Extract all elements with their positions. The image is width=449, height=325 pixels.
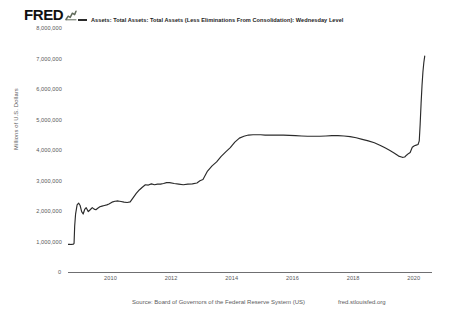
chart-header: FRED Assets: Total Assets: Total Assets … bbox=[0, 6, 449, 24]
chart-legend: Assets: Total Assets: Total Assets (Less… bbox=[78, 14, 343, 26]
y-tick-label: 1,000,000 bbox=[36, 239, 62, 245]
fred-chart: FRED Assets: Total Assets: Total Assets … bbox=[0, 0, 449, 325]
legend-label-series-1: Assets: Total Assets: Total Assets (Less… bbox=[91, 16, 343, 24]
y-tick-label: 4,000,000 bbox=[36, 147, 62, 153]
x-tick-label: 2012 bbox=[165, 275, 178, 281]
legend-swatch-series-1 bbox=[78, 19, 87, 21]
y-tick-label: 3,000,000 bbox=[36, 178, 62, 184]
chart-footer: Source: Board of Governors of the Federa… bbox=[0, 299, 449, 311]
x-tick-label: 2014 bbox=[225, 275, 238, 281]
x-axis-tick-labels: 201020122014201620182020 bbox=[0, 275, 449, 287]
fred-logo[interactable]: FRED bbox=[24, 6, 77, 22]
series-line-total-assets bbox=[68, 28, 432, 272]
y-tick-label: 8,000,000 bbox=[36, 25, 62, 31]
plot-area bbox=[68, 28, 432, 272]
x-tick-label: 2020 bbox=[407, 275, 420, 281]
fred-wordmark: FRED bbox=[24, 7, 63, 22]
x-tick-label: 2016 bbox=[286, 275, 299, 281]
y-tick-label: 6,000,000 bbox=[36, 86, 62, 92]
x-axis-line bbox=[68, 272, 432, 273]
y-axis-tick-labels: 8,000,0007,000,0006,000,0005,000,0004,00… bbox=[0, 28, 66, 272]
footer-url-link[interactable]: fred.stlouisfed.org bbox=[338, 299, 386, 305]
x-tick-label: 2018 bbox=[347, 275, 360, 281]
fred-line-chart-icon bbox=[65, 10, 77, 21]
y-tick-label: 2,000,000 bbox=[36, 208, 62, 214]
footer-source-text: Source: Board of Governors of the Federa… bbox=[132, 299, 305, 305]
y-tick-label: 7,000,000 bbox=[36, 56, 62, 62]
y-tick-label: 5,000,000 bbox=[36, 117, 62, 123]
x-tick-label: 2010 bbox=[104, 275, 117, 281]
